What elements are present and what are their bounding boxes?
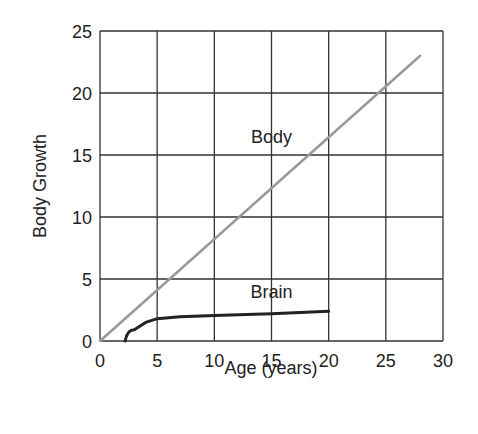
y-tick-label: 20 — [72, 84, 92, 104]
x-tick-label: 5 — [152, 351, 162, 371]
x-tick-label: 30 — [433, 351, 453, 371]
y-tick-label: 15 — [72, 146, 92, 166]
x-tick-label: 0 — [95, 351, 105, 371]
x-tick-label: 10 — [204, 351, 224, 371]
y-axis-label: Body Growth — [30, 134, 50, 238]
x-axis-label: Age (years) — [224, 358, 317, 378]
y-tick-label: 0 — [82, 332, 92, 352]
x-tick-label: 20 — [319, 351, 339, 371]
x-tick-label: 25 — [376, 351, 396, 371]
series-brain-line — [125, 311, 329, 341]
y-tick-label: 10 — [72, 208, 92, 228]
y-tick-label: 25 — [72, 22, 92, 42]
annotation-body: Body — [251, 127, 292, 147]
chart: 0510152025300510152025 BodyBrain Age (ye… — [0, 0, 478, 434]
annotation-brain: Brain — [250, 282, 292, 302]
y-tick-label: 5 — [82, 270, 92, 290]
